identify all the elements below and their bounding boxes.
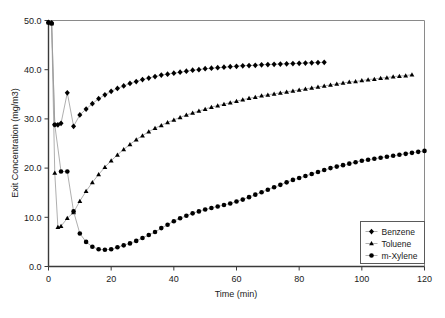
data-point <box>247 195 252 200</box>
data-point <box>184 214 189 219</box>
data-point <box>84 240 89 245</box>
data-point <box>52 123 57 128</box>
data-point <box>272 185 277 190</box>
data-point <box>284 180 289 185</box>
data-point <box>228 201 233 206</box>
data-point <box>240 197 245 202</box>
x-tick-label: 100 <box>354 274 369 284</box>
data-point <box>372 156 377 161</box>
legend-label-m-xylene: m-Xylene <box>382 251 418 261</box>
data-point <box>146 233 151 238</box>
data-point <box>391 154 396 159</box>
data-point <box>378 155 383 160</box>
data-point <box>328 166 333 171</box>
data-point <box>222 203 227 208</box>
x-tick-label: 0 <box>46 274 51 284</box>
data-point <box>316 170 321 175</box>
data-point <box>159 226 164 231</box>
data-point <box>140 236 145 241</box>
data-point <box>234 199 239 204</box>
data-point <box>71 209 76 214</box>
data-point <box>253 192 258 197</box>
data-point <box>266 187 271 192</box>
x-axis-ticks: 020406080100120 <box>46 267 432 284</box>
data-point <box>341 163 346 168</box>
data-point <box>90 245 95 250</box>
data-point <box>353 160 358 165</box>
data-point <box>134 239 139 244</box>
data-point <box>190 211 195 216</box>
data-point <box>197 209 202 214</box>
data-point <box>309 172 314 177</box>
x-axis-title: Time (min) <box>215 289 258 299</box>
chart-legend: BenzeneToluenem-Xylene <box>361 222 425 264</box>
legend-label-toluene: Toluene <box>382 239 412 249</box>
y-axis-ticks: 0.010.020.030.040.050.0 <box>24 16 49 272</box>
data-point <box>366 157 371 162</box>
data-point <box>410 151 415 156</box>
data-point <box>153 230 158 235</box>
y-axis-title: Exit Concentration (mg/m3) <box>10 88 20 198</box>
chart-figure: 0.010.020.030.040.050.0 020406080100120 … <box>0 0 445 318</box>
data-point <box>49 21 54 26</box>
data-point <box>403 152 408 157</box>
x-tick-label: 20 <box>106 274 116 284</box>
x-tick-label: 40 <box>169 274 179 284</box>
chart-canvas: 0.010.020.030.040.050.0 020406080100120 … <box>0 0 445 318</box>
y-tick-label: 10.0 <box>24 213 42 223</box>
data-point <box>259 190 264 195</box>
y-tick-label: 40.0 <box>24 65 42 75</box>
legend-label-benzene: Benzene <box>382 227 416 237</box>
data-point <box>209 206 214 211</box>
x-tick-label: 60 <box>231 274 241 284</box>
data-point <box>215 204 220 209</box>
legend-marker-m-xylene <box>369 253 374 258</box>
data-point <box>103 247 108 252</box>
data-point <box>78 231 83 236</box>
data-point <box>385 154 390 159</box>
data-point <box>65 169 70 174</box>
data-point <box>165 222 170 227</box>
y-tick-label: 20.0 <box>24 163 42 173</box>
x-tick-label: 120 <box>417 274 432 284</box>
data-point <box>360 158 365 163</box>
data-point <box>115 245 120 250</box>
data-point <box>278 183 283 188</box>
data-point <box>397 153 402 158</box>
data-point <box>109 247 114 252</box>
data-point <box>422 149 427 154</box>
data-point <box>303 174 308 179</box>
data-point <box>203 207 208 212</box>
y-tick-label: 50.0 <box>24 16 42 26</box>
data-point <box>172 219 177 224</box>
x-tick-label: 80 <box>294 274 304 284</box>
data-point <box>291 178 296 183</box>
data-point <box>59 169 64 174</box>
data-point <box>128 241 133 246</box>
data-point <box>416 150 421 155</box>
data-point <box>96 247 101 252</box>
data-point <box>121 243 126 248</box>
data-point <box>297 176 302 181</box>
data-point <box>322 168 327 173</box>
y-tick-label: 0.0 <box>29 262 42 272</box>
data-point <box>334 164 339 169</box>
data-point <box>347 161 352 166</box>
data-point <box>178 216 183 221</box>
y-tick-label: 30.0 <box>24 114 42 124</box>
